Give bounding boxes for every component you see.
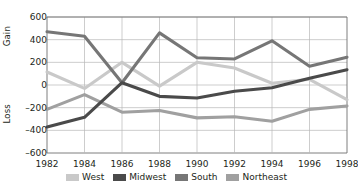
legend-item-midwest[interactable]: Midwest [113,172,166,182]
x-tick-label: 1996 [298,159,321,169]
legend-item-south[interactable]: South [175,172,217,182]
x-tick-label: 1988 [148,159,171,169]
y-tick-label: 0 [41,80,47,90]
y-tick-label: –400 [25,125,47,135]
x-tick-label: 1994 [261,159,284,169]
legend-swatch-icon [226,174,239,181]
legend-label: Midwest [129,172,166,182]
x-tick-label: 1986 [111,159,134,169]
legend-item-west[interactable]: West [66,172,104,182]
legend-label: Northeast [242,172,286,182]
legend-label: West [82,172,104,182]
x-tick-label: 1992 [223,159,246,169]
legend-item-northeast[interactable]: Northeast [226,172,286,182]
y-tick-label: –600 [25,148,47,158]
y-tick-label: –200 [25,103,47,113]
x-tick-label: 1998 [336,159,358,169]
y-axis-loss-label: Loss [2,104,12,123]
y-axis-gain-label: Gain [2,26,12,46]
legend-swatch-icon [113,174,126,181]
legend-swatch-icon [175,174,188,181]
y-tick-label: 400 [30,35,47,45]
x-tick-label: 1982 [36,159,59,169]
chart-legend: WestMidwestSouthNortheast [0,172,353,182]
legend-label: South [191,172,217,182]
y-tick-label: 600 [30,12,47,22]
y-tick-label: 200 [30,57,47,67]
x-tick-label: 1984 [73,159,96,169]
legend-swatch-icon [66,174,79,181]
x-tick-label: 1990 [186,159,209,169]
